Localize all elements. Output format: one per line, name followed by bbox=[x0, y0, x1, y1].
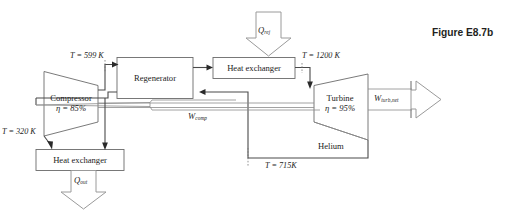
working-fluid-label: Helium bbox=[318, 142, 344, 151]
figure-canvas: Figure E8.7b Compressor η = 85% Turbine … bbox=[0, 0, 532, 212]
heat-exchanger-top-label: Heat exchanger bbox=[213, 63, 295, 73]
turbine-inlet-temperature-label: T = 1200 K bbox=[302, 52, 340, 60]
heat-output-label: Qout bbox=[74, 176, 87, 186]
compressor-label: Compressor η = 85% bbox=[44, 93, 98, 113]
heat-input-subscript: rej bbox=[264, 29, 270, 35]
compressor-outlet-temperature-label: T = 599 K bbox=[70, 52, 104, 60]
compressor-efficiency: η = 85% bbox=[44, 103, 98, 113]
compressor-inlet-temperature-label: T = 320 K bbox=[2, 128, 36, 136]
figure-caption: Figure E8.7b bbox=[432, 27, 493, 38]
heat-input-label: Qrej bbox=[258, 26, 270, 36]
turbine-outlet-temperature-label: T = 715K bbox=[265, 162, 297, 170]
regenerator-label: Regenerator bbox=[117, 73, 193, 83]
flow-regenerator-to-heat-exchanger bbox=[193, 65, 213, 71]
turbine-efficiency: η = 95% bbox=[313, 103, 367, 113]
heat-exchanger-bottom-label: Heat exchanger bbox=[36, 155, 124, 165]
net-work-label: Wturb,net bbox=[374, 94, 399, 104]
net-work-subscript: turb,net bbox=[381, 97, 399, 103]
flow-heat-exchanger-to-compressor bbox=[44, 136, 53, 150]
turbine-name: Turbine bbox=[313, 93, 367, 103]
compressor-name: Compressor bbox=[44, 93, 98, 103]
compressor-work-subscript: comp bbox=[195, 115, 207, 121]
flow-heat-exchanger-to-turbine bbox=[295, 63, 313, 89]
heat-output-subscript: out bbox=[80, 179, 87, 185]
compressor-work-label: Wcomp bbox=[188, 112, 207, 122]
flow-compressor-to-regenerator bbox=[98, 60, 119, 90]
turbine-label: Turbine η = 95% bbox=[313, 93, 367, 113]
